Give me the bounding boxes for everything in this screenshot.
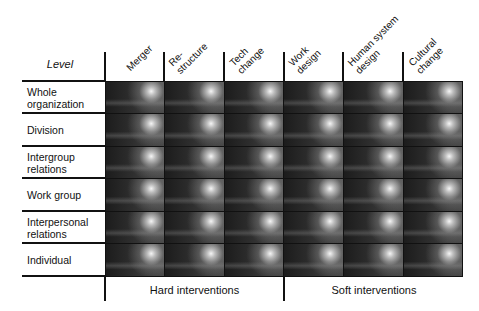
column-header-merger: Merger bbox=[124, 43, 154, 73]
header-divider bbox=[283, 52, 285, 82]
column-header-human-system-design: Human system design bbox=[345, 13, 408, 76]
matrix-cell bbox=[105, 243, 165, 277]
matrix-cell bbox=[343, 243, 404, 277]
matrix-cell bbox=[343, 178, 404, 212]
matrix-cell bbox=[164, 113, 225, 147]
row-label-work-group: Work group bbox=[27, 189, 103, 201]
row-divider bbox=[22, 112, 105, 114]
matrix-cell bbox=[224, 113, 284, 147]
matrix-cell bbox=[105, 211, 165, 244]
row-label-whole-organization: Whole organization bbox=[27, 86, 103, 110]
matrix-cell bbox=[343, 113, 404, 147]
group-label-soft-interventions: Soft interventions bbox=[285, 284, 463, 296]
matrix-cell bbox=[105, 113, 165, 147]
matrix-cell bbox=[283, 211, 344, 244]
matrix-cell bbox=[224, 81, 284, 114]
group-label-hard-interventions: Hard interventions bbox=[106, 284, 283, 296]
matrix-cell bbox=[403, 243, 463, 277]
matrix-cell bbox=[283, 178, 344, 212]
matrix-cell bbox=[343, 146, 404, 179]
matrix-cell bbox=[164, 81, 225, 114]
header-divider bbox=[402, 52, 404, 82]
matrix-cell bbox=[164, 243, 225, 277]
column-header-restructure: Re- structure bbox=[166, 33, 209, 76]
matrix-cell bbox=[403, 178, 463, 212]
matrix-cell bbox=[343, 211, 404, 244]
header-divider bbox=[104, 52, 106, 82]
row-divider bbox=[22, 242, 105, 244]
column-header-cultural-change: Cultural change bbox=[406, 36, 446, 76]
matrix-cell bbox=[343, 81, 404, 114]
matrix-cell bbox=[224, 146, 284, 179]
row-divider bbox=[22, 80, 105, 82]
matrix-cell bbox=[283, 113, 344, 147]
row-divider bbox=[22, 210, 105, 212]
level-header: Level bbox=[30, 58, 90, 70]
matrix-cell bbox=[283, 243, 344, 277]
matrix-cell bbox=[105, 146, 165, 179]
row-label-intergroup-relations: Intergroup relations bbox=[27, 151, 103, 175]
row-divider bbox=[22, 145, 105, 147]
matrix-cell bbox=[224, 211, 284, 244]
matrix-cell bbox=[164, 146, 225, 179]
row-label-individual: Individual bbox=[27, 254, 103, 266]
row-divider bbox=[22, 177, 105, 179]
matrix-cell bbox=[403, 81, 463, 114]
matrix-cell bbox=[224, 243, 284, 277]
matrix-cell bbox=[105, 178, 165, 212]
column-header-tech-change: Tech change bbox=[227, 37, 266, 76]
matrix-cell bbox=[403, 146, 463, 179]
header-divider bbox=[223, 52, 225, 82]
matrix-cell bbox=[105, 81, 165, 114]
row-divider bbox=[22, 275, 105, 277]
matrix-cell bbox=[403, 211, 463, 244]
column-header-work-design: Work design bbox=[286, 40, 322, 76]
matrix-cell bbox=[283, 81, 344, 114]
header-divider bbox=[163, 52, 165, 82]
row-label-division: Division bbox=[27, 124, 103, 136]
matrix-cell bbox=[164, 178, 225, 212]
matrix-cell bbox=[224, 178, 284, 212]
matrix-cell bbox=[403, 113, 463, 147]
matrix-cell bbox=[164, 211, 225, 244]
header-divider bbox=[342, 52, 344, 82]
row-label-interpersonal-relations: Interpersonal relations bbox=[27, 216, 103, 240]
matrix-cell bbox=[283, 146, 344, 179]
